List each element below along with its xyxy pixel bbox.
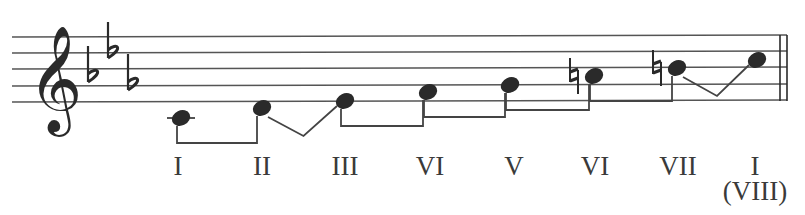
whole-step-bracket xyxy=(506,84,589,110)
note-degree-3 xyxy=(333,90,357,112)
svg-text:𝄞: 𝄞 xyxy=(28,25,82,137)
degree-label-1: I xyxy=(174,153,183,180)
degree-label-7: VII xyxy=(659,153,696,180)
treble-clef-icon: 𝄞 xyxy=(28,25,82,137)
whole-step-bracket xyxy=(424,93,505,117)
half-step-vee xyxy=(683,65,749,96)
scale-diagram: 𝄞 xyxy=(0,0,805,215)
whole-step-bracket xyxy=(341,100,423,126)
staff-line-2 xyxy=(12,51,787,53)
double-barline xyxy=(780,35,787,101)
notehead xyxy=(169,107,193,129)
flat-icon xyxy=(128,54,138,90)
flat-icon xyxy=(88,46,98,82)
note-degree-2 xyxy=(250,97,274,119)
note-degree-5 xyxy=(498,74,522,96)
whole-step-bracket xyxy=(590,76,672,101)
notehead xyxy=(665,57,689,79)
notehead xyxy=(250,97,274,119)
notehead xyxy=(333,90,357,112)
degree-label-2: II xyxy=(253,153,271,180)
staff-line-1 xyxy=(12,35,787,37)
half-step-vee xyxy=(268,106,337,136)
notehead xyxy=(582,65,606,87)
key-signature-three-flats xyxy=(88,22,138,90)
degree-label-3: III xyxy=(332,153,359,180)
degree-label-4: VI xyxy=(416,153,445,180)
note-degree-6 xyxy=(570,58,606,94)
notehead xyxy=(498,74,522,96)
natural-sign-icon xyxy=(570,58,578,94)
degree-label-6: VI xyxy=(581,153,610,180)
degree-label-5: V xyxy=(504,153,524,180)
degree-sub-label-octave: (VIII) xyxy=(723,178,787,205)
note-degree-1 xyxy=(167,107,195,129)
